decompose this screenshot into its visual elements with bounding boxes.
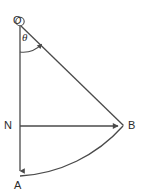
angle-arc-theta xyxy=(20,44,42,52)
geometry-diagram xyxy=(0,0,142,194)
arc-from-a-to-b xyxy=(20,126,123,176)
label-node-a: A xyxy=(14,180,21,191)
label-node-b: B xyxy=(128,120,135,131)
radius-line-ob xyxy=(21,26,124,126)
label-node-n: N xyxy=(4,120,12,131)
label-angle-theta: θ xyxy=(22,32,27,43)
label-origin-o: O xyxy=(13,15,22,26)
figure-canvas: O θ N B A xyxy=(0,0,142,194)
